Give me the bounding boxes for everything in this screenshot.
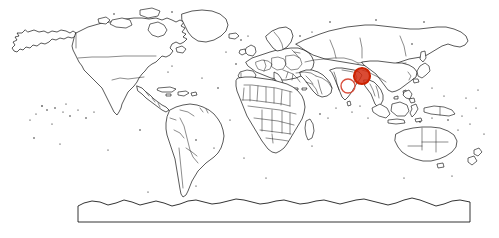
land-java xyxy=(388,119,405,124)
land-tasmania xyxy=(437,163,444,168)
marker-myanmar[interactable] xyxy=(354,68,370,84)
land-cuba xyxy=(157,87,176,92)
world-map-figure xyxy=(0,0,499,238)
land-jamaica xyxy=(166,94,171,96)
land-cyprus xyxy=(302,88,307,90)
land-puerto-rico xyxy=(191,92,197,96)
map-canvas xyxy=(0,0,499,238)
land-timor xyxy=(415,118,422,122)
land-sri-lanka xyxy=(347,101,351,106)
land-japan-south xyxy=(413,79,419,83)
